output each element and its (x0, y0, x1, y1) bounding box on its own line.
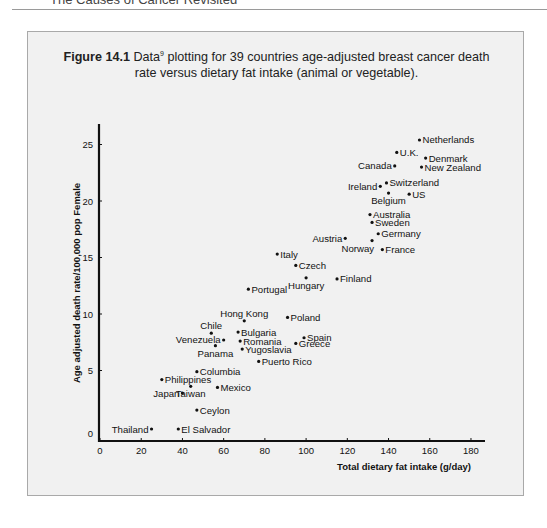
point-label: Japan (153, 388, 179, 399)
point-marker-icon (377, 232, 380, 235)
data-point: Ireland (348, 181, 382, 192)
point-marker-icon (381, 248, 384, 251)
data-point: Norway (342, 239, 375, 254)
data-point: US (408, 189, 426, 200)
data-point: Yugoslavia (241, 344, 293, 355)
point-marker-icon (243, 319, 246, 322)
point-label: New Zealand (425, 162, 482, 173)
point-label: Austria (312, 233, 343, 244)
point-label: Netherlands (422, 134, 474, 145)
data-point: France (381, 244, 415, 255)
point-label: Chile (200, 320, 222, 331)
data-point: New Zealand (420, 162, 481, 173)
data-point: Venezuela (176, 334, 225, 345)
point-label: Panama (198, 348, 234, 359)
x-axis-title: Total dietary fat intake (g/day) (337, 461, 471, 472)
data-point: Panama (198, 344, 234, 359)
data-point: Poland (286, 312, 320, 323)
point-label: Poland (291, 312, 321, 323)
data-point: Hungary (288, 276, 324, 291)
x-tick-label: 160 (422, 445, 438, 456)
point-marker-icon (379, 185, 382, 188)
point-label: Mexico (220, 382, 250, 393)
point-marker-icon (216, 386, 219, 389)
y-tick-label: 20 (82, 196, 93, 207)
point-label: Greece (299, 338, 330, 349)
data-point: Canada (358, 160, 396, 171)
data-point: Mexico (216, 382, 251, 393)
x-tick-label: 120 (339, 445, 355, 456)
x-tick-label: 20 (136, 445, 147, 456)
y-tick-label: 0 (88, 428, 93, 439)
data-point: Greece (294, 338, 330, 349)
data-points: NetherlandsU.K.DenmarkNew ZealandCanadaS… (112, 134, 481, 434)
x-tick-label: 180 (463, 445, 479, 456)
point-label: Puerto Rico (262, 356, 312, 367)
point-label: US (412, 189, 425, 200)
data-point: Belgium (371, 191, 406, 206)
point-label: Norway (342, 243, 375, 254)
point-marker-icon (393, 164, 396, 167)
point-marker-icon (344, 237, 347, 240)
point-label: Venezuela (176, 334, 221, 345)
x-tick-label: 0 (97, 445, 102, 456)
point-label: Sweden (375, 217, 410, 228)
data-point: El Salvador (177, 424, 231, 435)
point-label: El Salvador (181, 424, 231, 435)
point-marker-icon (181, 392, 184, 395)
point-marker-icon (420, 166, 423, 169)
data-point: Hong Kong (220, 308, 268, 323)
x-tick-label: 140 (381, 445, 397, 456)
point-marker-icon (236, 330, 239, 333)
data-point: Germany (377, 228, 421, 239)
data-point: Thailand (112, 424, 153, 435)
point-label: Ireland (348, 181, 377, 192)
point-label: Switzerland (389, 177, 439, 188)
point-label: Thailand (112, 424, 149, 435)
x-tick-label: 60 (218, 445, 229, 456)
x-tick-label: 80 (260, 445, 271, 456)
data-point: Czech (294, 260, 326, 271)
point-marker-icon (177, 427, 180, 430)
point-label: Yugoslavia (245, 344, 292, 355)
scatter-chart: 0204060801001201401601800510152025 Nethe… (0, 0, 547, 528)
data-point: Finland (335, 273, 371, 284)
y-tick-label: 15 (82, 252, 93, 263)
data-point: Philippines (160, 374, 211, 385)
point-label: Philippines (165, 374, 212, 385)
point-marker-icon (294, 342, 297, 345)
y-tick-label: 25 (82, 139, 93, 150)
data-point: Taiwan (176, 385, 206, 400)
point-marker-icon (418, 138, 421, 141)
data-point: U.K. (395, 147, 418, 158)
data-point: Sweden (370, 217, 409, 228)
point-marker-icon (370, 221, 373, 224)
point-marker-icon (195, 408, 198, 411)
point-marker-icon (276, 253, 279, 256)
point-label: Hong Kong (220, 308, 268, 319)
y-tick-label: 5 (88, 365, 93, 376)
point-marker-icon (408, 193, 411, 196)
y-axis-title: Age adjusted death rate/100,000 pop Fema… (71, 183, 82, 383)
point-marker-icon (241, 347, 244, 350)
data-point: Portugal (247, 284, 287, 295)
data-point: Japan (153, 388, 184, 399)
point-label: Belgium (371, 195, 406, 206)
point-marker-icon (247, 288, 250, 291)
point-marker-icon (222, 338, 225, 341)
point-marker-icon (286, 316, 289, 319)
x-tick-label: 40 (177, 445, 188, 456)
point-label: Ceylon (200, 405, 230, 416)
point-marker-icon (239, 340, 242, 343)
point-label: Czech (299, 260, 326, 271)
point-label: Portugal (251, 284, 287, 295)
data-point: Netherlands (418, 134, 475, 145)
x-tick-label: 100 (298, 445, 314, 456)
point-label: Canada (358, 160, 392, 171)
point-marker-icon (385, 181, 388, 184)
point-marker-icon (257, 360, 260, 363)
data-point: Switzerland (385, 177, 439, 188)
point-label: Germany (381, 228, 421, 239)
point-marker-icon (335, 277, 338, 280)
point-marker-icon (368, 213, 371, 216)
